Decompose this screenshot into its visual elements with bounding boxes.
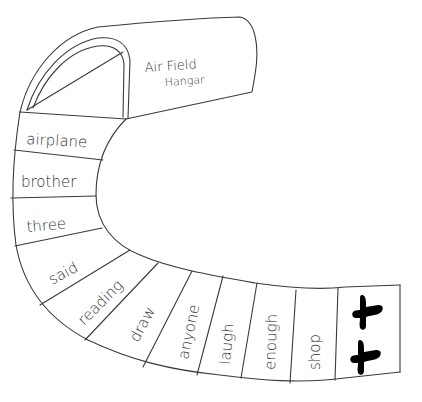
space-5[interactable]: reading [74, 276, 127, 329]
space-1[interactable]: airplane [26, 130, 88, 151]
space-4[interactable]: said [45, 258, 81, 288]
word-spaces: airplane brother three said reading draw… [21, 130, 324, 370]
airplane-icon [350, 340, 381, 375]
space-7[interactable]: anyone [174, 303, 203, 361]
space-8[interactable]: laugh [216, 323, 238, 366]
airplane-icon [352, 295, 383, 330]
hangar: Air Field Hangar [20, 17, 257, 119]
hangar-title-line2: Hangar [164, 73, 205, 89]
space-3[interactable]: three [26, 215, 67, 236]
space-9[interactable]: enough [261, 314, 281, 371]
space-2[interactable]: brother [21, 173, 77, 191]
space-10[interactable]: shop [306, 334, 324, 370]
finish-space[interactable] [350, 295, 383, 375]
hangar-title-line1: Air Field [144, 56, 197, 75]
space-6[interactable]: draw [126, 304, 159, 345]
game-board: Air Field Hangar airplane brother three … [0, 0, 422, 402]
